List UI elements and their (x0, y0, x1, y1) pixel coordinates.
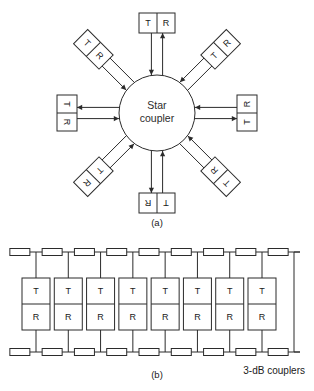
transmit-label: T (62, 101, 72, 107)
receive-label: R (97, 312, 104, 322)
panel-b-label: (b) (151, 369, 163, 380)
bus-station-3: TR (87, 278, 115, 330)
bus-station-8: TR (248, 278, 276, 330)
star-node-west: TR (57, 95, 77, 131)
transmit-label: T (162, 286, 168, 296)
transmit-label: T (195, 286, 201, 296)
receive-label: R (259, 312, 266, 322)
figure-root: TRTRTRTRTRTRTRTR Star coupler (a) TRTRTR… (0, 0, 314, 391)
bus-couplers-group (10, 249, 288, 356)
bottom-coupler-1 (42, 349, 62, 356)
arrow-into-coupler-west (114, 116, 119, 121)
receive-label: R (242, 100, 252, 107)
star-coupler-label-line1: Star (147, 99, 167, 111)
bus-station-2: TR (54, 278, 82, 330)
arrow-into-coupler-south (160, 151, 165, 156)
receive-label: R (163, 18, 170, 28)
bus-loopback-wire (294, 252, 300, 352)
top-coupler-0 (10, 249, 30, 256)
bottom-coupler-2 (74, 349, 94, 356)
panel-b-bus-topology: TRTRTRTRTRTRTRTR (b) 3-dB couplers (0, 230, 314, 391)
star-node-east: TR (237, 95, 257, 131)
top-coupler-3 (107, 249, 127, 256)
bottom-coupler-6 (204, 349, 224, 356)
star-node-north-west: TR (74, 30, 114, 70)
transmit-label: T (66, 286, 72, 296)
top-coupler-7 (236, 249, 256, 256)
receive-label: R (162, 312, 169, 322)
top-coupler-5 (171, 249, 191, 256)
top-coupler-1 (42, 249, 62, 256)
star-node-north-east: TR (201, 30, 241, 70)
star-coupler-label-line2: coupler (140, 112, 175, 124)
bus-stations-group: TRTRTRTRTRTRTRTR (22, 278, 276, 330)
bus-station-5: TR (151, 278, 179, 330)
transmit-label: T (145, 18, 151, 28)
receive-label: R (226, 312, 233, 322)
top-coupler-4 (139, 249, 159, 256)
top-coupler-8 (268, 249, 288, 256)
receive-label: R (144, 198, 151, 208)
transmit-label: T (242, 119, 252, 125)
bottom-coupler-8 (268, 349, 288, 356)
bottom-coupler-5 (171, 349, 191, 356)
transmit-label: T (227, 286, 233, 296)
transmit-label: T (98, 286, 104, 296)
arrow-to-node-west (77, 105, 82, 110)
bus-station-7: TR (216, 278, 244, 330)
arrow-into-coupler-east (195, 105, 200, 110)
panel-a-label: (a) (151, 217, 163, 228)
top-coupler-2 (74, 249, 94, 256)
bottom-coupler-3 (107, 349, 127, 356)
arrow-to-node-east (232, 116, 237, 121)
star-node-south-east: TR (201, 157, 241, 197)
bottom-coupler-4 (139, 349, 159, 356)
bus-station-4: TR (119, 278, 147, 330)
receive-label: R (65, 312, 72, 322)
three-db-couplers-caption: 3-dB couplers (243, 365, 305, 376)
arrow-to-node-south (149, 188, 154, 193)
transmit-label: T (33, 286, 39, 296)
star-node-south: TR (139, 193, 175, 213)
receive-label: R (194, 312, 201, 322)
arrow-into-coupler-north (149, 70, 154, 75)
receive-label: R (33, 312, 40, 322)
arrow-to-node-north (160, 33, 165, 38)
bus-station-6: TR (183, 278, 211, 330)
top-coupler-6 (204, 249, 224, 256)
bus-station-1: TR (22, 278, 50, 330)
star-node-north: TR (139, 13, 175, 33)
transmit-label: T (163, 198, 169, 208)
bottom-coupler-0 (10, 349, 30, 356)
star-node-south-west: TR (74, 157, 114, 197)
receive-label: R (62, 119, 72, 126)
transmit-label: T (130, 286, 136, 296)
bottom-coupler-7 (236, 349, 256, 356)
receive-label: R (130, 312, 137, 322)
transmit-label: T (259, 286, 265, 296)
panel-a-star-topology: TRTRTRTRTRTRTRTR Star coupler (a) (0, 0, 314, 230)
